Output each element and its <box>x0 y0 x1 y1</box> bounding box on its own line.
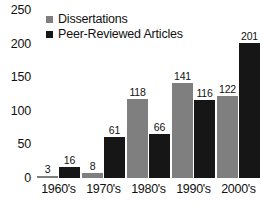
bar-value-label: 118 <box>122 87 154 98</box>
legend-swatch-icon <box>46 16 53 23</box>
y-tick-label: 250 <box>0 4 31 16</box>
bar-group: 122201 <box>217 10 260 178</box>
legend-item: Dissertations <box>46 12 206 27</box>
axis-baseline <box>36 178 260 179</box>
legend-swatch-icon <box>46 31 53 38</box>
bar-chart: 050100150200250 31686111866141116122201 … <box>0 0 261 211</box>
bar-value-label: 66 <box>144 122 176 133</box>
y-tick-label: 100 <box>0 105 31 117</box>
y-tick-label: 200 <box>0 38 31 50</box>
legend-label: Peer-Reviewed Articles <box>58 28 183 41</box>
bar-value-label: 61 <box>99 125 131 136</box>
bar-value-label: 201 <box>234 31 262 42</box>
y-tick-label: 0 <box>0 172 31 184</box>
bar-dissertations: 122 <box>217 96 238 178</box>
bar-articles: 116 <box>194 100 215 178</box>
x-tick-label: 1970's <box>80 181 128 197</box>
legend-label: Dissertations <box>58 13 128 26</box>
bar-articles: 201 <box>239 43 260 178</box>
bar-articles: 61 <box>104 137 125 178</box>
bar-value-label: 141 <box>167 71 199 82</box>
x-axis: 1960's1970's1980's1990's2000's <box>36 181 261 203</box>
bar-dissertations: 118 <box>127 99 148 178</box>
chart-legend: DissertationsPeer-Reviewed Articles <box>46 12 206 42</box>
y-axis: 050100150200250 <box>0 0 34 211</box>
x-tick-label: 1990's <box>170 181 218 197</box>
x-tick-label: 2000's <box>215 181 262 197</box>
legend-item: Peer-Reviewed Articles <box>46 27 206 42</box>
x-tick-label: 1980's <box>125 181 173 197</box>
y-tick-label: 50 <box>0 138 31 150</box>
bar-articles: 66 <box>149 134 170 178</box>
y-tick-label: 150 <box>0 71 31 83</box>
x-tick-label: 1960's <box>35 181 83 197</box>
